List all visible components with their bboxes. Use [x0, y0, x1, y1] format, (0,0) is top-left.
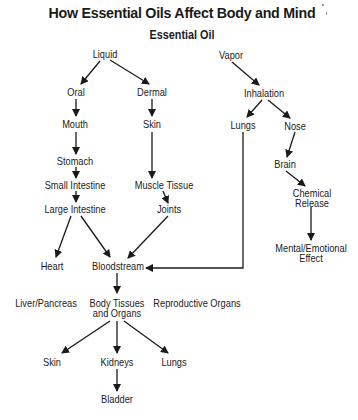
node-vapor: Vapor	[219, 50, 243, 60]
node-small-intestine: Small Intestine	[45, 180, 106, 190]
node-skin-dermal: Skin	[143, 119, 161, 129]
node-inhalation: Inhalation	[244, 88, 284, 98]
node-lungs-inhalation: Lungs	[230, 120, 255, 130]
node-chemical-release-line2: Release	[295, 198, 329, 208]
node-stomach: Stomach	[57, 156, 93, 166]
node-skin-output: Skin	[43, 357, 61, 367]
node-mouth: Mouth	[62, 119, 88, 129]
node-liver-pancreas: Liver/Pancreas	[15, 298, 77, 308]
node-muscle-tissue: Muscle Tissue	[135, 180, 194, 190]
node-brain: Brain	[274, 159, 296, 169]
node-reproductive-organs: Reproductive Organs	[153, 298, 240, 308]
node-heart: Heart	[41, 261, 64, 271]
node-liquid: Liquid	[93, 49, 118, 59]
node-lungs-output: Lungs	[161, 357, 186, 367]
node-large-intestine: Large Intestine	[44, 204, 105, 214]
node-body-tissues-line2: and Organs	[93, 308, 141, 318]
node-joints: Joints	[157, 204, 181, 214]
node-mental-effect-line2: Effect	[299, 253, 322, 263]
node-oral: Oral	[67, 87, 84, 97]
node-bloodstream: Bloodstream	[92, 261, 144, 271]
node-nose: Nose	[284, 121, 306, 131]
node-dermal: Dermal	[137, 87, 167, 97]
node-bladder: Bladder	[101, 394, 133, 404]
node-kidneys: Kidneys	[101, 357, 134, 367]
